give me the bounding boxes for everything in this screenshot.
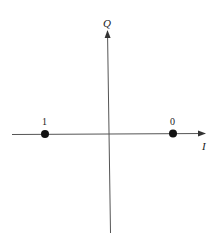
q-axis-label: Q: [103, 17, 111, 29]
constellation-point-1: [41, 130, 49, 138]
i-axis-label: I: [201, 140, 207, 152]
q-axis: [108, 31, 111, 233]
point-0-label: 0: [170, 116, 175, 127]
constellation-diagram: Q I 1 0: [0, 0, 221, 247]
constellation-point-0: [169, 130, 177, 138]
point-1-label: 1: [42, 116, 47, 127]
